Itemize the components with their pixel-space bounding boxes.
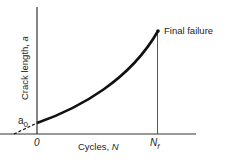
final-failure-label: Final failure [164, 25, 213, 36]
final-failure-point [156, 29, 160, 33]
origin-label: 0 [34, 137, 40, 148]
nf-label: Nf [150, 137, 160, 151]
y-axis-label: Crack length, a [19, 36, 30, 100]
crack-growth-curve [37, 31, 158, 123]
a0-label: a0 [18, 115, 29, 129]
x-axis-label: Cycles, N [78, 141, 119, 152]
crack-growth-diagram: Final failure Crack length, a a0 0 Cycle… [0, 0, 230, 160]
